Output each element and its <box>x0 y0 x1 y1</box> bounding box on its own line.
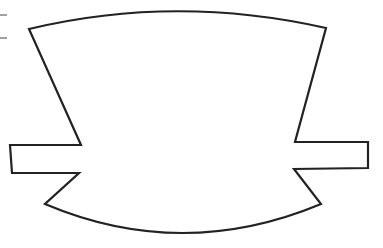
template-canvas <box>0 0 383 248</box>
hat-template-outline <box>10 11 368 233</box>
